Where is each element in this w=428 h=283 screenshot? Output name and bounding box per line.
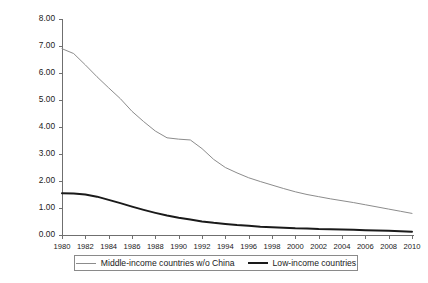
- x-tick-label: 1992: [194, 242, 211, 251]
- x-tick-label: 1982: [77, 242, 94, 251]
- series-line: [62, 193, 412, 232]
- x-tick-label: 2002: [310, 242, 327, 251]
- y-tick-label: 5.00: [39, 94, 56, 104]
- x-tick-label: 1984: [100, 242, 117, 251]
- x-tick-label: 1986: [124, 242, 141, 251]
- legend-entry[interactable]: Middle-income countries w/o China: [76, 259, 235, 268]
- x-tick-label: 2008: [380, 242, 397, 251]
- x-tick-label: 2004: [334, 242, 351, 251]
- x-tick-label: 2000: [287, 242, 304, 251]
- x-tick-label: 1988: [147, 242, 164, 251]
- y-tick-label: 1.00: [39, 202, 56, 212]
- x-axis-tick-labels: 1980198219841986198819901992199419961998…: [54, 242, 421, 251]
- y-tick-label: 0.00: [39, 229, 56, 239]
- legend-line-swatch: [248, 262, 268, 264]
- legend-line-swatch: [76, 263, 96, 264]
- series-line: [62, 49, 412, 214]
- y-axis-group: 0.001.002.003.004.005.006.007.008.00: [39, 13, 62, 239]
- x-tick-label: 1998: [264, 242, 281, 251]
- y-tick-label: 8.00: [39, 13, 56, 23]
- legend-label: Middle-income countries w/o China: [101, 259, 235, 268]
- x-tick-label: 2006: [357, 242, 374, 251]
- data-series-group: [62, 49, 412, 232]
- legend-entry[interactable]: Low-income countries: [248, 259, 357, 268]
- x-tick-label: 1994: [217, 242, 234, 251]
- line-chart: 0.001.002.003.004.005.006.007.008.00 198…: [0, 0, 428, 283]
- y-axis-tick-labels: 0.001.002.003.004.005.006.007.008.00: [39, 13, 56, 239]
- y-tick-label: 2.00: [39, 175, 56, 185]
- legend-label: Low-income countries: [273, 259, 357, 268]
- y-tick-label: 6.00: [39, 67, 56, 77]
- x-axis-group: 1980198219841986198819901992199419961998…: [54, 235, 421, 251]
- y-tick-label: 7.00: [39, 40, 56, 50]
- x-tick-label: 1990: [170, 242, 187, 251]
- y-tick-label: 3.00: [39, 148, 56, 158]
- chart-plot-area: 0.001.002.003.004.005.006.007.008.00 198…: [0, 0, 428, 283]
- x-axis-ticks: [63, 235, 413, 239]
- y-tick-label: 4.00: [39, 121, 56, 131]
- chart-legend: Middle-income countries w/o ChinaLow-inc…: [74, 255, 358, 271]
- x-tick-label: 1980: [54, 242, 71, 251]
- x-tick-label: 2010: [404, 242, 421, 251]
- x-tick-label: 1996: [240, 242, 257, 251]
